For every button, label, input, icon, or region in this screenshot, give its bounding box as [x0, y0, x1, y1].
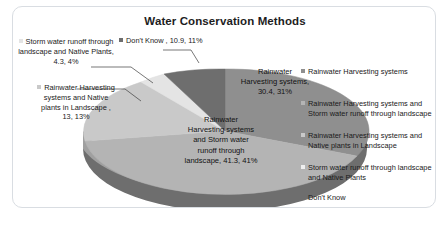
data-label-rainwater-storm: Rainwater Harvesting systems and Storm w…	[153, 115, 289, 166]
legend-swatch-icon	[301, 195, 305, 199]
rainwater-native-swatch-icon	[37, 85, 41, 89]
data-label-storm-water-text: Storm water runoff through landscape and…	[18, 37, 114, 66]
legend-item-storm-water[interactable]: Storm water runoff through landscape and…	[301, 163, 436, 182]
legend-swatch-icon	[301, 69, 305, 73]
page-title: Water Conservation Methods	[13, 15, 436, 27]
legend-swatch-icon	[301, 133, 305, 137]
legend-item-rainwater-harvesting[interactable]: Rainwater Harvesting systems	[301, 67, 433, 77]
legend-item-label: Don't Know	[308, 193, 346, 203]
data-label-dont-know: Don't Know , 10.9, 11%	[119, 36, 203, 46]
chart-card: Water Conservation Methods	[12, 6, 436, 208]
leader-line-storm-water	[91, 67, 153, 83]
legend-item-label: Rainwater Harvesting systems and Storm w…	[308, 99, 436, 118]
data-label-storm-water: Storm water runoff through landscape and…	[15, 37, 117, 66]
legend-item-rainwater-native[interactable]: Rainwater Harvesting systems and Native …	[301, 131, 436, 150]
data-label-dont-know-text: Don't Know , 10.9, 11%	[126, 36, 202, 45]
legend-item-label: Rainwater Harvesting systems	[308, 67, 408, 77]
leader-line-dont-know	[163, 50, 199, 63]
legend-item-label: Rainwater Harvesting systems and Native …	[308, 131, 436, 150]
legend-swatch-icon	[301, 165, 305, 169]
legend-item-rainwater-storm[interactable]: Rainwater Harvesting systems and Storm w…	[301, 99, 436, 118]
legend-item-dont-know[interactable]: Don't Know	[301, 193, 421, 203]
legend-swatch-icon	[301, 101, 305, 105]
storm-water-swatch-icon	[19, 39, 23, 43]
data-label-rainwater-native: Rainwater Harvesting systems and Native …	[37, 83, 115, 122]
dont-know-swatch-icon	[119, 38, 123, 42]
legend-item-label: Storm water runoff through landscape and…	[308, 163, 436, 182]
data-label-rainwater-native-text: Rainwater Harvesting systems and Native …	[41, 83, 115, 121]
